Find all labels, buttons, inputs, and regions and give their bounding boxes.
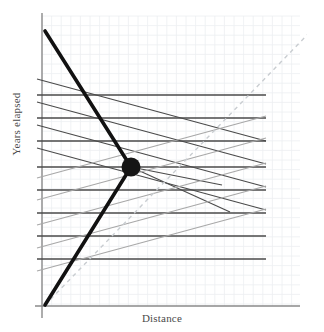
- chart-canvas: Years elapsed Distance: [0, 0, 324, 332]
- traveller-worldline: [45, 31, 131, 305]
- spacetime-diagram: [0, 0, 324, 332]
- x-axis-label: Distance: [0, 312, 324, 324]
- y-axis-label: Years elapsed: [10, 74, 22, 174]
- inbound-simultaneity-slopes: [37, 116, 266, 271]
- axes: [35, 13, 300, 318]
- data-markers: [122, 158, 141, 177]
- outbound-simultaneity-slopes: [37, 79, 266, 212]
- data-series: [37, 30, 312, 305]
- lines-of-simultaneity-outbound: [37, 95, 266, 259]
- turnaround-event: [122, 158, 141, 177]
